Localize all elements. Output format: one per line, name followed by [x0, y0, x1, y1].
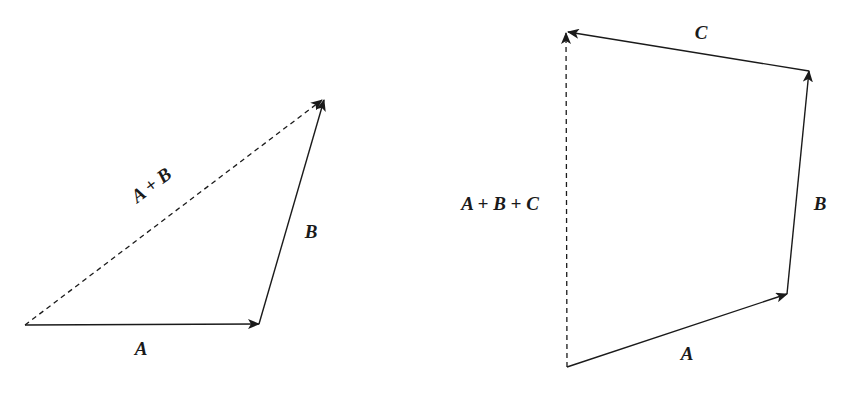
left-label-a: A: [134, 338, 148, 359]
right-vector-c-arrow: [568, 32, 809, 71]
left-vector-b-arrow: [259, 100, 324, 324]
left-label-sum: A + B: [126, 163, 175, 207]
right-diagram: A + B + C C B A: [460, 22, 826, 367]
right-label-b: B: [813, 193, 827, 214]
right-resultant-arrow: [566, 33, 567, 367]
right-label-c: C: [695, 22, 708, 43]
right-vector-a-arrow: [567, 294, 787, 367]
left-diagram: A B A + B: [25, 100, 324, 359]
right-label-a: A: [680, 343, 694, 364]
left-label-b: B: [304, 221, 318, 242]
right-label-sum: A + B + C: [460, 193, 539, 214]
right-vector-b-arrow: [787, 71, 809, 294]
left-vector-a-arrow: [25, 324, 259, 325]
left-resultant-arrow: [25, 100, 322, 325]
vector-addition-figure: A B A + B A + B + C C B A: [0, 0, 845, 395]
